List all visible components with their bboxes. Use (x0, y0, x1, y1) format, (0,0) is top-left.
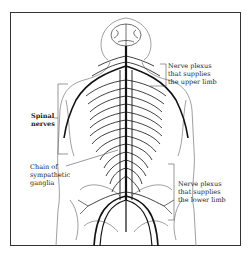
label-spinal-nerves: Spinal nerves (31, 112, 55, 128)
nervous-system-illustration (0, 0, 252, 257)
brain-icon (111, 24, 141, 46)
label-upper-limb-plexus: Nerve plexus that supplies the upper lim… (168, 62, 217, 86)
callout-lines (54, 64, 174, 220)
label-lower-limb-plexus: Nerve plexus that supplies the lower lim… (178, 180, 226, 204)
label-chain-of-sympathetic-ganglia: Chain of sympathetic ganglia (30, 163, 70, 187)
